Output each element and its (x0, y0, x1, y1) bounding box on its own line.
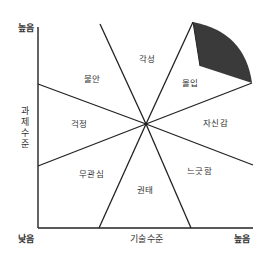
region-label-worry: 걱정 (71, 117, 88, 129)
y-axis-title-char: 준 (19, 139, 31, 150)
region-label-boredom: 권태 (137, 183, 154, 195)
y-axis-title-char: 과 (19, 106, 31, 117)
y-axis-title: 과 제 수 준 (19, 106, 31, 150)
y-axis-title-char: 수 (19, 128, 31, 139)
x-axis-title: 기술수준 (130, 232, 163, 245)
x-axis-high-label: 높음 (234, 232, 251, 245)
region-label-anxiety: 불안 (84, 72, 101, 84)
flow-diagram (0, 0, 271, 262)
region-label-relaxation: 느긋함 (187, 164, 212, 176)
region-label-flow: 몰입 (182, 76, 199, 88)
origin-low-label: 낮음 (18, 232, 35, 245)
flow-shaded-wedge (193, 22, 252, 83)
region-label-arousal: 각성 (139, 52, 156, 64)
region-label-apathy: 무관심 (79, 167, 104, 179)
divider-bottom-right (146, 124, 191, 228)
divider-right-lower (146, 124, 253, 165)
y-axis-title-char: 제 (19, 117, 31, 128)
region-label-control: 자신감 (203, 116, 228, 128)
y-axis-high-label: 높음 (18, 21, 35, 34)
